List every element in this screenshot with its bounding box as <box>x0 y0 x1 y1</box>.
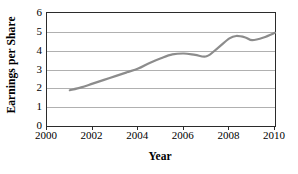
x-tick-label: 2000 <box>35 130 57 141</box>
y-axis-title: Earnings per Share <box>0 0 22 130</box>
x-tick-label: 2004 <box>126 130 148 141</box>
y-axis-title-text: Earnings per Share <box>5 16 17 113</box>
series-path <box>70 33 275 90</box>
y-tick-label: 5 <box>37 25 43 36</box>
x-axis-title: Year <box>46 150 274 162</box>
x-axis-tick-labels: 200020022004200620082010 <box>0 130 298 146</box>
y-tick-label: 1 <box>37 101 43 112</box>
x-tick-label: 2010 <box>263 130 285 141</box>
y-tick-label: 4 <box>37 44 43 55</box>
x-tick-label: 2008 <box>217 130 239 141</box>
y-tick-label: 2 <box>37 82 43 93</box>
earnings-per-share-line-chart: Earnings per Share 0123456 2000200220042… <box>0 0 298 174</box>
x-tick-label: 2006 <box>172 130 194 141</box>
plot-area <box>46 12 276 127</box>
y-tick-label: 6 <box>37 7 43 18</box>
y-axis-tick-labels: 0123456 <box>22 0 44 174</box>
y-tick-label: 3 <box>37 63 43 74</box>
x-tick-label: 2002 <box>81 130 103 141</box>
series-line-earnings-per-share <box>47 13 275 126</box>
